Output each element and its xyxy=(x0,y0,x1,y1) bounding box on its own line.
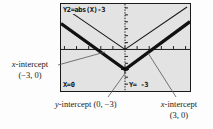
annotation-y-intercept: y-intercept (0, −3) xyxy=(55,99,117,110)
annotation-x-intercept-right-point: (3, 0) xyxy=(148,110,210,121)
annotation-x-intercept-left: x-intercept (−3, 0) xyxy=(2,59,58,80)
annotation-x-intercept-right-text: -intercept xyxy=(165,99,198,109)
figure-root: Y2=abs(X)-3 X=0 Y= -3 x-intercept (−3, 0… xyxy=(0,0,213,129)
annotation-x-intercept-left-text: -intercept xyxy=(16,59,49,69)
trace-x-readout: X=0 xyxy=(62,81,75,89)
graph-plot xyxy=(61,4,190,91)
annotation-x-intercept-right: x-intercept (3, 0) xyxy=(148,99,210,120)
annotation-x-intercept-left-point: (−3, 0) xyxy=(2,70,58,81)
graphing-calculator-screen: Y2=abs(X)-3 X=0 Y= -3 xyxy=(60,3,191,92)
equation-label: Y2=abs(X)-3 xyxy=(62,6,106,14)
annotation-y-intercept-text: -intercept (0, −3) xyxy=(59,99,117,109)
trace-y-readout: Y= -3 xyxy=(128,81,149,89)
